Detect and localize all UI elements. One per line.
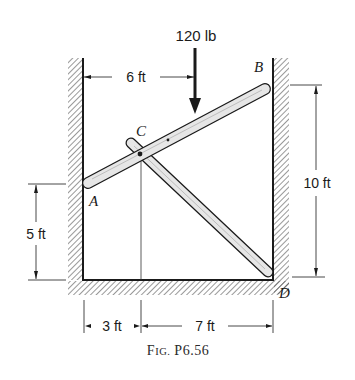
figure-caption: FIG. P6.56 — [147, 343, 209, 358]
point-label-b: B — [254, 59, 263, 75]
dimension-3ft-label: 3 ft — [102, 318, 122, 334]
dimension-7ft-label: 7 ft — [195, 318, 215, 334]
point-label-d: D — [278, 285, 290, 301]
frame-diagram: 120 lb A B C D 6 ft 10 ft 5 ft — [0, 0, 355, 380]
load-arrow — [189, 48, 201, 114]
load-label: 120 lb — [176, 27, 217, 44]
left-wall — [68, 58, 83, 281]
point-label-c: C — [136, 123, 147, 139]
pin-c — [138, 152, 143, 157]
bar-ab — [88, 89, 265, 183]
dimension-5ft-label: 5 ft — [26, 226, 46, 242]
dimension-6ft-label: 6 ft — [126, 69, 146, 85]
floor — [68, 280, 289, 295]
right-wall — [273, 58, 289, 294]
bar-cd — [131, 143, 268, 272]
load-point — [167, 139, 170, 142]
dimension-10ft-label: 10 ft — [303, 175, 330, 191]
point-label-a: A — [88, 193, 99, 209]
